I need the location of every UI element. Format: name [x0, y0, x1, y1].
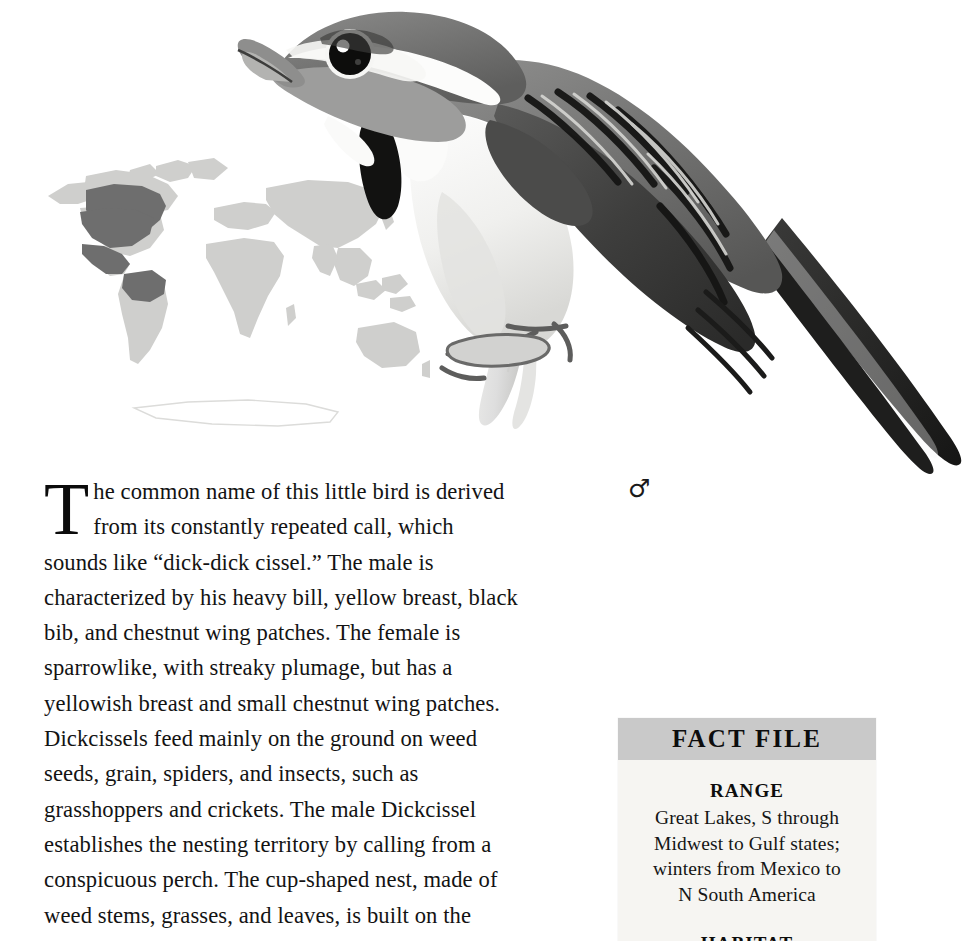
- field-guide-page: ♂ T he common name of this little bird i…: [0, 0, 975, 941]
- bird-feet: [442, 324, 570, 379]
- fact-file-section-range: RANGE Great Lakes, S through Midwest to …: [628, 780, 866, 907]
- range-line: Great Lakes, S through: [628, 805, 866, 831]
- bird-toes: [447, 334, 549, 366]
- range-line: winters from Mexico to: [628, 856, 866, 882]
- bird-wingtip: [688, 292, 772, 392]
- map-antarctica-outline: [134, 400, 338, 426]
- male-symbol: ♂: [628, 476, 650, 501]
- drop-cap: T: [44, 476, 93, 538]
- fact-file-label-habitat: HABITAT: [628, 933, 866, 941]
- fact-file-section-habitat: HABITAT Grassland, grain,: [628, 933, 866, 941]
- range-line: N South America: [628, 882, 866, 908]
- article-paragraph: he common name of this little bird is de…: [44, 474, 522, 941]
- perch-stalk: [479, 228, 536, 429]
- fact-file-panel: FACT FILE RANGE Great Lakes, S through M…: [618, 718, 876, 941]
- world-range-map: [38, 152, 430, 452]
- bird-head: [238, 12, 527, 166]
- fact-file-title: FACT FILE: [618, 718, 876, 760]
- bird-wing: [485, 92, 755, 352]
- fact-file-label-range: RANGE: [628, 780, 866, 802]
- fact-file-body: RANGE Great Lakes, S through Midwest to …: [618, 760, 876, 941]
- fact-file-value-range: Great Lakes, S through Midwest to Gulf s…: [628, 805, 866, 907]
- bird-tail: [746, 218, 961, 474]
- article-body: T he common name of this little bird is …: [44, 474, 522, 941]
- range-line: Midwest to Gulf states;: [628, 831, 866, 857]
